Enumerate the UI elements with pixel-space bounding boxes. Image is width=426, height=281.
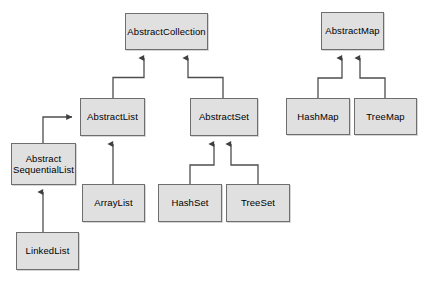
class-node-array-list[interactable]: ArrayList xyxy=(82,184,145,222)
edge-abstract-list-to-abstract-collection xyxy=(113,58,144,98)
class-node-hash-set[interactable]: HashSet xyxy=(158,184,222,222)
class-node-abstract-map[interactable]: AbstractMap xyxy=(321,12,384,50)
class-node-abstract-list[interactable]: AbstractList xyxy=(80,98,145,136)
class-node-linked-list[interactable]: LinkedList xyxy=(16,232,79,270)
class-node-tree-map[interactable]: TreeMap xyxy=(354,98,417,135)
edge-tree-map-to-abstract-map xyxy=(360,58,385,98)
edge-abstract-sequential-list-to-abstract-list xyxy=(43,117,72,143)
class-node-tree-set[interactable]: TreeSet xyxy=(226,184,290,222)
edge-abstract-set-to-abstract-collection xyxy=(188,58,223,98)
class-node-abstract-collection[interactable]: AbstractCollection xyxy=(125,13,208,50)
class-diagram-canvas: AbstractCollection AbstractMap AbstractL… xyxy=(0,0,426,281)
class-node-abstract-set[interactable]: AbstractSet xyxy=(190,98,258,136)
edge-hash-set-to-abstract-set xyxy=(190,144,214,184)
edge-hash-map-to-abstract-map xyxy=(318,58,342,98)
class-node-hash-map[interactable]: HashMap xyxy=(286,98,350,135)
edge-tree-set-to-abstract-set xyxy=(231,144,258,184)
class-node-abstract-sequential-list[interactable]: Abstract SequentialList xyxy=(11,143,76,185)
